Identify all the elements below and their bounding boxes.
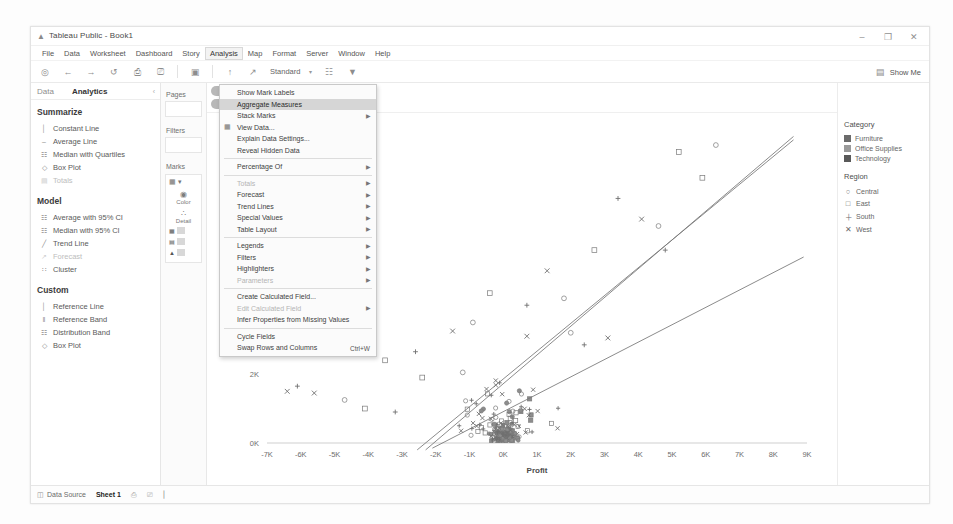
trend-line[interactable]: [417, 140, 793, 450]
menu-item-cycle-fields[interactable]: Cycle Fields: [220, 331, 376, 343]
data-point[interactable]: [342, 398, 347, 403]
data-point[interactable]: [639, 217, 644, 222]
menu-help[interactable]: Help: [370, 47, 395, 60]
sort-ascending-icon[interactable]: ↑: [224, 66, 236, 78]
menu-item-aggregate-measures[interactable]: Aggregate Measures: [220, 99, 376, 111]
duplicate-sheet-icon[interactable]: ⎚: [154, 66, 166, 78]
data-point[interactable]: [481, 427, 485, 431]
new-worksheet-icon[interactable]: ⎙: [131, 66, 143, 78]
analytics-item-constant-line[interactable]: │Constant Line: [37, 122, 154, 135]
menu-item-highlighters[interactable]: Highlighters▶: [220, 263, 376, 275]
data-point[interactable]: [460, 370, 465, 375]
data-point[interactable]: [477, 412, 481, 416]
data-point[interactable]: [383, 358, 388, 363]
minimize-button[interactable]: –: [849, 27, 875, 46]
tab-analytics[interactable]: Analytics: [72, 87, 108, 96]
marks-pill-category[interactable]: ▦: [166, 225, 201, 236]
menu-file[interactable]: File: [37, 47, 59, 60]
sheet-tab[interactable]: Sheet 1: [96, 491, 121, 498]
data-point[interactable]: [524, 303, 529, 308]
data-point[interactable]: [312, 391, 317, 396]
legend-item-furniture[interactable]: Furniture: [844, 133, 929, 143]
data-point[interactable]: [555, 426, 559, 430]
legend-item-technology[interactable]: Technology: [844, 153, 929, 163]
analytics-item-average-with-95-ci[interactable]: ☷Average with 95% CI: [37, 211, 154, 224]
new-worksheet-icon[interactable]: ⎙: [131, 491, 137, 499]
menu-item-create-calculated-field-[interactable]: Create Calculated Field...: [220, 291, 376, 303]
menu-item-special-values[interactable]: Special Values▶: [220, 212, 376, 224]
data-point[interactable]: [487, 291, 492, 296]
menu-item-swap-rows-and-columns[interactable]: Swap Rows and ColumnsCtrl+W: [220, 342, 376, 354]
collapse-pane-icon[interactable]: ‹: [153, 88, 155, 95]
menu-item-forecast[interactable]: Forecast▶: [220, 189, 376, 201]
data-point[interactable]: [527, 407, 531, 411]
analytics-item-average-line[interactable]: ‒Average Line: [37, 135, 154, 148]
pages-shelf[interactable]: [165, 101, 202, 117]
save-icon[interactable]: ↺: [108, 66, 120, 78]
data-point[interactable]: [524, 334, 529, 339]
data-point[interactable]: [504, 439, 508, 443]
analytics-item-median-with-95-ci[interactable]: ☷Median with 95% CI: [37, 224, 154, 237]
menu-item-table-layout[interactable]: Table Layout▶: [220, 224, 376, 236]
data-point[interactable]: [676, 150, 681, 155]
analytics-item-reference-band[interactable]: ‖Reference Band: [37, 313, 154, 326]
undo-arrow-icon[interactable]: ←: [62, 66, 74, 78]
data-point[interactable]: [295, 384, 300, 389]
marks-type-dropdown[interactable]: ▦ ▾: [166, 177, 201, 187]
menu-item-trend-lines[interactable]: Trend Lines▶: [220, 201, 376, 213]
legend-item-central[interactable]: ○Central: [844, 185, 929, 197]
data-point[interactable]: [529, 418, 533, 422]
data-point[interactable]: [469, 433, 473, 437]
data-point[interactable]: [505, 401, 509, 405]
data-point[interactable]: [582, 342, 587, 347]
marks-detail-button[interactable]: ∴ Detail: [166, 206, 201, 225]
data-point[interactable]: [562, 296, 567, 301]
data-point[interactable]: [464, 399, 468, 403]
data-point[interactable]: [549, 421, 553, 425]
data-point[interactable]: [713, 143, 718, 148]
data-point[interactable]: [393, 410, 398, 415]
show-me-button[interactable]: ▤ Show Me: [875, 66, 921, 78]
menu-item-filters[interactable]: Filters▶: [220, 252, 376, 264]
menu-format[interactable]: Format: [267, 47, 301, 60]
data-point[interactable]: [545, 268, 550, 273]
menu-worksheet[interactable]: Worksheet: [85, 47, 131, 60]
close-button[interactable]: ✕: [901, 27, 927, 46]
menu-analysis[interactable]: Analysis: [205, 47, 243, 60]
tableau-home-icon[interactable]: ◎: [39, 66, 51, 78]
data-point[interactable]: [480, 416, 484, 420]
marks-pill-region[interactable]: ▤: [166, 236, 201, 247]
data-point[interactable]: [457, 424, 461, 428]
redo-arrow-icon[interactable]: →: [85, 66, 97, 78]
data-point[interactable]: [531, 388, 535, 392]
fix-axis-icon[interactable]: ▼: [346, 66, 358, 78]
new-dashboard-icon[interactable]: ⎚: [147, 491, 153, 499]
trend-line[interactable]: [426, 136, 794, 449]
legend-item-south[interactable]: ＋South: [844, 209, 929, 223]
data-point[interactable]: [488, 423, 492, 427]
data-point[interactable]: [505, 421, 509, 425]
data-point[interactable]: [514, 418, 518, 422]
clear-sheet-icon[interactable]: ▣: [189, 66, 201, 78]
data-point[interactable]: [616, 196, 621, 201]
data-point[interactable]: [285, 389, 290, 394]
highlight-icon[interactable]: ☷: [323, 66, 335, 78]
legend-item-west[interactable]: ✕West: [844, 223, 929, 235]
data-point[interactable]: [656, 224, 661, 229]
data-point[interactable]: [663, 248, 668, 253]
menu-data[interactable]: Data: [59, 47, 85, 60]
menu-item-legends[interactable]: Legends▶: [220, 240, 376, 252]
menu-item-percentage-of[interactable]: Percentage Of▶: [220, 161, 376, 173]
analytics-item-median-with-quartiles[interactable]: ☷Median with Quartiles: [37, 148, 154, 161]
data-point[interactable]: [605, 336, 610, 341]
data-point[interactable]: [592, 248, 597, 253]
menu-item-view-data-[interactable]: ▦View Data...: [220, 122, 376, 134]
data-point[interactable]: [500, 392, 504, 396]
maximize-button[interactable]: ❐: [875, 27, 901, 46]
menu-story[interactable]: Story: [177, 47, 205, 60]
data-point[interactable]: [568, 330, 573, 335]
sort-descending-icon[interactable]: ↗: [247, 66, 259, 78]
data-point[interactable]: [483, 431, 487, 435]
menu-window[interactable]: Window: [333, 47, 370, 60]
marks-color-button[interactable]: ◉ Color: [166, 187, 201, 206]
